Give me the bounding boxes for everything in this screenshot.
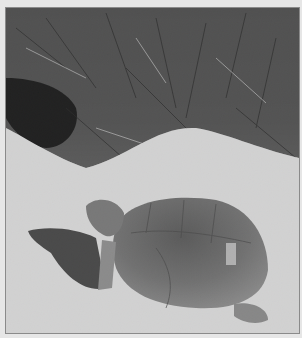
- tortoise-photo: [6, 8, 299, 333]
- photo-frame: [5, 7, 300, 334]
